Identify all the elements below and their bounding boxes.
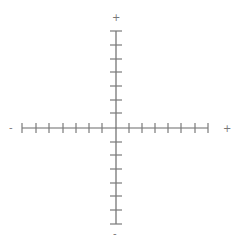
horizontal-negative-label: - [9, 122, 13, 133]
horizontal-axis [22, 123, 208, 133]
vertical-positive-label: + [112, 12, 120, 23]
horizontal-positive-label: + [223, 123, 231, 134]
axes-diagram: - + + - [0, 0, 242, 250]
vertical-negative-label: - [113, 228, 117, 239]
